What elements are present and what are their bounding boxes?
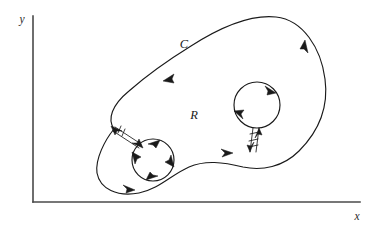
figure-canvas: C R x y bbox=[0, 0, 374, 230]
right-cross-cut-group bbox=[247, 128, 262, 152]
right-hole-circle bbox=[234, 82, 280, 128]
arrow-outer-top-left bbox=[163, 74, 174, 83]
diagram-svg: C R x y bbox=[0, 0, 374, 230]
arrow-outer-bottom-left bbox=[123, 185, 135, 193]
arrow-right-cut-down bbox=[247, 142, 254, 152]
label-region-R: R bbox=[189, 108, 198, 122]
arrow-left-hole-bottom bbox=[146, 172, 158, 180]
arrow-inner-lower bbox=[221, 149, 233, 157]
label-outer-curve-C: C bbox=[180, 37, 189, 51]
right-cut-tick-2 bbox=[249, 139, 258, 141]
left-cross-cut-group bbox=[111, 126, 143, 148]
arrow-left-hole-left bbox=[132, 152, 141, 164]
outer-boundary-group bbox=[97, 17, 326, 194]
right-hole-group bbox=[234, 82, 280, 128]
arrow-left-hole-right bbox=[165, 155, 174, 167]
label-axis-y: y bbox=[18, 13, 25, 26]
left-cut-tick-2 bbox=[122, 129, 125, 136]
label-axis-x: x bbox=[353, 210, 360, 222]
inner-lower-boundary-group bbox=[221, 149, 233, 157]
arrow-outer-top-right bbox=[300, 40, 308, 53]
outer-boundary-curve bbox=[97, 17, 326, 194]
left-cut-lower-line bbox=[113, 131, 139, 148]
arrow-left-hole-top bbox=[148, 140, 160, 148]
